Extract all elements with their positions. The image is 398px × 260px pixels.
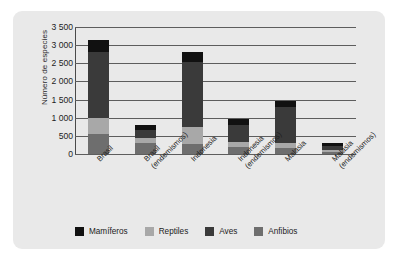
x-axis-tick-labels: BrasilBrasil(endemismos)IndonesiaIndones…	[75, 157, 356, 219]
gridline	[75, 45, 356, 46]
legend-label: Anfibios	[268, 227, 297, 236]
chart-area: Número de especies 3 5003 0002 5002 0001…	[13, 11, 385, 249]
y-tick-label: 500	[59, 131, 73, 141]
chart-legend: MamíferosReptilesAvesAnfibios	[75, 223, 365, 239]
y-tick-label: 0	[68, 149, 73, 159]
gridline	[75, 118, 356, 119]
bar-segment-mamíferos	[182, 52, 203, 62]
y-tick-label: 1 000	[51, 113, 73, 123]
bar-segment-reptiles	[88, 118, 109, 134]
y-tick-label: 2 500	[51, 58, 73, 68]
y-tick-label: 3 000	[51, 40, 73, 50]
legend-label: Aves	[219, 227, 237, 236]
bar-segment-aves	[182, 62, 203, 127]
gridline	[75, 27, 356, 28]
legend-swatch	[75, 227, 84, 236]
chart-panel: Número de especies 3 5003 0002 5002 0001…	[13, 11, 385, 249]
y-axis-tick-labels: 3 5003 0002 5002 0001 5001 0005000	[27, 27, 73, 154]
legend-swatch	[145, 227, 154, 236]
bar-1	[88, 40, 109, 154]
plot-region	[75, 27, 356, 154]
y-tick-label: 3 500	[51, 22, 73, 32]
gridline	[75, 100, 356, 101]
legend-label: Mamíferos	[89, 227, 128, 236]
y-tick-label: 2 000	[51, 76, 73, 86]
legend-item: Reptiles	[145, 227, 189, 236]
legend-item: Anfibios	[254, 227, 297, 236]
legend-swatch	[205, 227, 214, 236]
bar-segment-aves	[135, 130, 156, 138]
legend-item: Aves	[205, 227, 237, 236]
bar-segment-mamíferos	[88, 40, 109, 53]
bar-segment-aves	[88, 52, 109, 117]
gridline	[75, 154, 356, 155]
y-tick-label: 1 500	[51, 95, 73, 105]
gridline	[75, 81, 356, 82]
bar-segment-aves	[228, 125, 249, 142]
legend-item: Mamíferos	[75, 227, 128, 236]
legend-swatch	[254, 227, 263, 236]
gridline	[75, 63, 356, 64]
legend-label: Reptiles	[159, 227, 189, 236]
